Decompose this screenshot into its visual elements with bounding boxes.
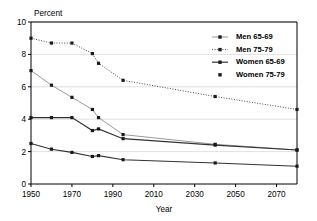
chart-container: 0246810 1950197019902010203020502070 Per…: [0, 0, 317, 221]
data-point-marker: [214, 161, 217, 164]
legend-label: Men 65-69: [236, 32, 273, 41]
data-point-marker: [214, 95, 217, 98]
x-tick-label: 1990: [104, 190, 123, 199]
data-point-marker: [50, 41, 53, 44]
x-tick-label: 2010: [145, 190, 164, 199]
x-tick-label: 2070: [267, 190, 286, 199]
data-point-marker: [70, 41, 73, 44]
data-point-marker: [91, 108, 94, 111]
y-tick-label: 0: [21, 180, 26, 189]
legend-label: Women 75-79: [236, 70, 285, 79]
data-point-marker: [121, 133, 124, 136]
y-tick-label: 10: [17, 18, 27, 27]
data-point-marker: [121, 158, 124, 161]
data-point-marker: [50, 148, 53, 151]
x-tick-label: 2030: [186, 190, 205, 199]
x-axis-title: Year: [156, 205, 173, 214]
x-tick-label: 1950: [22, 190, 41, 199]
data-point-marker: [295, 108, 298, 111]
data-point-marker: [70, 116, 73, 119]
data-point-marker: [91, 52, 94, 55]
data-point-marker: [70, 151, 73, 154]
y-axis-tick-labels: 0246810: [17, 18, 27, 189]
data-point-marker: [50, 116, 53, 119]
data-point-marker: [29, 37, 32, 40]
data-point-marker: [29, 142, 32, 145]
x-tick-label: 1970: [63, 190, 82, 199]
legend-label: Women 65-69: [236, 57, 285, 66]
legend-swatch-marker: [218, 48, 221, 51]
data-point-marker: [97, 127, 100, 130]
data-point-marker: [70, 96, 73, 99]
y-tick-label: 2: [21, 148, 26, 157]
legend-label: Men 75-79: [236, 45, 273, 54]
data-point-marker: [97, 62, 100, 65]
legend-swatch-marker: [218, 35, 221, 38]
data-point-marker: [91, 129, 94, 132]
data-point-marker: [97, 154, 100, 157]
data-point-marker: [214, 144, 217, 147]
data-point-marker: [29, 116, 32, 119]
data-point-marker: [295, 165, 298, 168]
data-point-marker: [295, 148, 298, 151]
y-tick-label: 8: [21, 50, 26, 59]
y-tick-label: 4: [21, 115, 26, 124]
x-tick-label: 2050: [227, 190, 246, 199]
data-point-marker: [91, 155, 94, 158]
data-point-marker: [121, 137, 124, 140]
x-axis-tick-labels: 1950197019902010203020502070: [22, 190, 286, 199]
data-point-marker: [50, 84, 53, 87]
legend-swatch-marker: [218, 73, 221, 76]
data-point-marker: [97, 116, 100, 119]
data-point-marker: [29, 69, 32, 72]
y-tick-label: 6: [21, 83, 26, 92]
y-axis-title: Percent: [34, 9, 63, 18]
percent-by-year-line-chart: 0246810 1950197019902010203020502070 Per…: [0, 0, 317, 221]
data-point-marker: [121, 79, 124, 82]
legend-swatch-marker: [218, 61, 221, 64]
